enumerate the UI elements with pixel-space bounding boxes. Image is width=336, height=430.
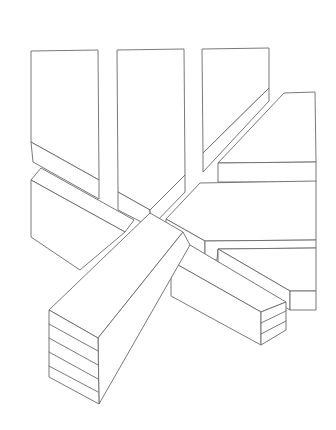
- isometric-blocks-drawing: [0, 0, 336, 430]
- upper-right-slab-face-1: [218, 162, 316, 182]
- middle-upright-block: [117, 49, 185, 227]
- lower-right-slab-face-2: [290, 291, 316, 310]
- drawing-canvas: [0, 0, 336, 430]
